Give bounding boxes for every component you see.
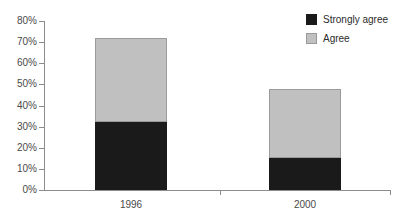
chart-legend: Strongly agree Agree — [306, 11, 388, 49]
y-tick-mark — [39, 190, 44, 191]
y-tick-mark — [39, 84, 44, 85]
bar-segment-agree — [95, 38, 167, 123]
y-tick-label: 80% — [0, 16, 37, 26]
y-tick-mark — [39, 127, 44, 128]
bar-stack — [95, 38, 167, 190]
y-tick-label: 50% — [0, 79, 37, 89]
legend-swatch-agree-icon — [306, 33, 317, 44]
stacked-bar-chart: 80%70%60%50%40%30%20%10%0% 19962000 Stro… — [0, 0, 413, 223]
y-tick-mark — [39, 148, 44, 149]
x-tick-label-1996: 1996 — [91, 199, 171, 210]
y-tick-mark — [39, 106, 44, 107]
bar-stack — [269, 89, 341, 190]
bar-segment-agree — [269, 89, 341, 159]
x-axis-line — [44, 190, 390, 191]
y-tick-label: 30% — [0, 122, 37, 132]
y-tick-label: 60% — [0, 58, 37, 68]
y-tick-mark — [39, 42, 44, 43]
y-tick-mark — [39, 21, 44, 22]
legend-swatch-strongly-agree-icon — [306, 14, 317, 25]
y-tick-label: 70% — [0, 37, 37, 47]
bar-segment-strongly-agree — [95, 122, 167, 190]
y-tick-label: 10% — [0, 164, 37, 174]
legend-label-agree: Agree — [323, 33, 350, 44]
y-tick-mark — [39, 169, 44, 170]
x-tick-mark — [390, 190, 391, 195]
y-tick-label: 20% — [0, 143, 37, 153]
y-tick-label: 40% — [0, 101, 37, 111]
bar-segment-strongly-agree — [269, 158, 341, 190]
y-tick-mark — [39, 63, 44, 64]
legend-label-strongly-agree: Strongly agree — [323, 14, 388, 25]
y-axis-line — [44, 21, 45, 191]
y-tick-label: 0% — [0, 185, 37, 195]
legend-item-agree: Agree — [306, 30, 388, 46]
legend-item-strongly-agree: Strongly agree — [306, 11, 388, 27]
x-tick-label-2000: 2000 — [265, 199, 345, 210]
x-tick-mark — [220, 190, 221, 195]
